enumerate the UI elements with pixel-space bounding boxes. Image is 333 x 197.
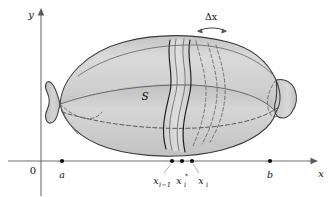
x-i-subscript: i [206,181,208,189]
surface-label-s: S [141,90,148,102]
x-i-star-superscript: * [185,172,188,179]
point-label-x-i-star: x i * [176,172,188,189]
x-i-star-subscript: i [184,181,186,189]
delta-x-arrow-right [221,28,227,33]
tick-dot-a [60,159,64,163]
x-axis-label: x [318,168,324,179]
point-label-x-i-minus-1: x i−1 [153,175,171,189]
left-end-cap [46,82,60,123]
y-axis-arrowhead [38,8,45,16]
x-axis-arrowhead [311,158,319,165]
x-i-star-base: x [176,175,182,186]
x-i-minus-1-subscript: i−1 [159,181,171,189]
delta-x-label: Δx [205,11,218,22]
tick-dot-x-i [190,159,194,163]
tick-dot-b [268,159,272,163]
figure-container: Δx S y x 0 a b x i−1 [0,0,333,197]
point-label-x-i: x i [198,175,208,189]
leader-x-i-minus-1 [164,164,171,173]
point-label-b: b [267,169,273,180]
origin-label: 0 [30,165,36,176]
tick-dot-x-i-star [180,159,184,163]
leader-x-i [193,164,199,173]
y-axis-label: y [27,9,34,20]
tick-dot-x-i-minus-1 [170,159,174,163]
leader-lines-group [164,164,199,173]
solid-of-revolution [46,36,297,157]
point-label-a: a [59,169,65,180]
x-i-base: x [198,175,204,186]
delta-x-annotation: Δx [197,11,227,33]
delta-x-arrow-left [197,28,203,33]
surface-of-revolution-figure: Δx S y x 0 a b x i−1 [0,0,333,197]
